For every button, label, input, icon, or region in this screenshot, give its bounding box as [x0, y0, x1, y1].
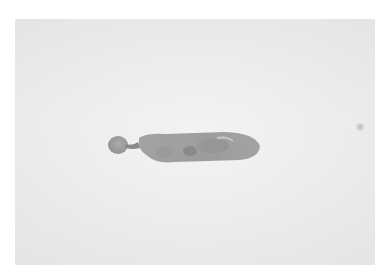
background-speck: [356, 123, 364, 131]
specimen: [105, 124, 265, 169]
photograph: [15, 19, 375, 265]
